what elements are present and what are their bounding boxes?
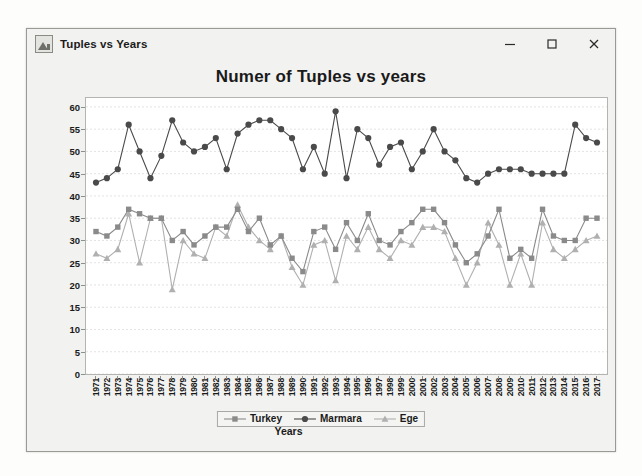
x-tick-mark: [171, 376, 172, 379]
data-point: [420, 148, 426, 154]
y-tick-label: 35: [69, 213, 80, 224]
x-tick-mark: [128, 376, 129, 379]
data-point: [278, 126, 284, 132]
x-tick-mark: [378, 376, 379, 379]
data-point: [332, 277, 339, 283]
series-ege: [93, 201, 601, 292]
data-point: [159, 215, 164, 220]
x-tick-label: 1980: [189, 378, 199, 396]
x-tick-label: 1983: [222, 378, 232, 396]
data-point: [169, 117, 175, 123]
data-point: [529, 256, 534, 261]
x-tick-label: 1993: [331, 378, 341, 396]
x-tick-label: 1987: [265, 378, 275, 396]
data-point: [180, 237, 187, 243]
data-point: [202, 144, 208, 150]
data-point: [408, 241, 415, 247]
data-point: [224, 224, 229, 229]
window-controls: [489, 29, 615, 59]
data-point: [398, 139, 404, 145]
data-point: [343, 175, 349, 181]
data-point: [464, 260, 469, 265]
plot-area: [85, 97, 608, 375]
x-tick-label: 2014: [559, 378, 569, 396]
chart-legend: TurkeyMarmaraEge: [217, 411, 425, 427]
data-point: [540, 207, 545, 212]
data-point: [115, 166, 121, 172]
x-tick-mark: [193, 376, 194, 379]
data-point: [561, 171, 567, 177]
data-point: [126, 207, 131, 212]
x-tick-label: 1999: [396, 378, 406, 396]
legend-item-marmara[interactable]: Marmara: [294, 414, 362, 424]
x-tick-label: 1971: [91, 378, 101, 396]
x-tick-mark: [160, 376, 161, 379]
y-tick-label: 50: [69, 146, 80, 157]
legend-marker-square-icon: [224, 414, 246, 424]
x-tick-mark: [498, 376, 499, 379]
legend-item-ege[interactable]: Ege: [374, 414, 418, 424]
data-point: [551, 233, 556, 238]
data-point: [398, 229, 403, 234]
x-tick-label: 2013: [548, 378, 558, 396]
x-tick-label: 1989: [287, 378, 297, 396]
x-tick-label: 2000: [407, 378, 417, 396]
data-point: [485, 171, 491, 177]
x-tick-mark: [487, 376, 488, 379]
data-point: [148, 215, 153, 220]
application-window: Tuples vs Years: [26, 28, 616, 452]
data-point: [180, 229, 185, 234]
y-tick-label: 55: [69, 124, 80, 135]
x-tick-label: 1975: [135, 378, 145, 396]
legend-label: Turkey: [250, 414, 282, 424]
x-tick-label: 2001: [418, 378, 428, 396]
x-tick-label: 1973: [113, 378, 123, 396]
x-tick-mark: [465, 376, 466, 379]
data-point: [191, 242, 196, 247]
x-tick-label: 1982: [211, 378, 221, 396]
data-point: [311, 144, 317, 150]
x-tick-label: 2003: [440, 378, 450, 396]
data-point: [235, 207, 240, 212]
data-point: [453, 242, 458, 247]
data-point: [268, 242, 273, 247]
y-tick-label: 0: [75, 369, 80, 380]
data-point: [300, 166, 306, 172]
x-tick-mark: [542, 376, 543, 379]
data-point: [452, 157, 458, 163]
x-tick-mark: [95, 376, 96, 379]
x-tick-label: 1988: [276, 378, 286, 396]
x-tick-label: 2002: [429, 378, 439, 396]
data-point: [202, 233, 207, 238]
x-tick-label: 1976: [145, 378, 155, 396]
data-point: [300, 269, 305, 274]
data-point: [245, 122, 251, 128]
data-point: [365, 224, 372, 230]
plot-wrapper: Number of Tuples 05101520253035404550556…: [85, 97, 608, 375]
x-tick-mark: [139, 376, 140, 379]
data-point: [333, 247, 338, 252]
x-tick-label: 2008: [494, 378, 504, 396]
x-tick-mark: [269, 376, 270, 379]
x-tick-mark: [313, 376, 314, 379]
x-tick-label: 1977: [156, 378, 166, 396]
maximize-button[interactable]: [531, 29, 573, 59]
x-tick-mark: [335, 376, 336, 379]
y-tick-label: 15: [69, 302, 80, 313]
data-point: [93, 250, 100, 256]
data-point: [344, 220, 349, 225]
y-tick-label: 25: [69, 257, 80, 268]
data-point: [442, 220, 447, 225]
y-tick-label: 40: [69, 190, 80, 201]
close-button[interactable]: [573, 29, 615, 59]
data-point: [114, 246, 121, 252]
data-point: [387, 242, 392, 247]
data-point: [104, 175, 110, 181]
data-point: [104, 233, 109, 238]
x-tick-mark: [106, 376, 107, 379]
legend-item-turkey[interactable]: Turkey: [224, 414, 282, 424]
x-tick-mark: [182, 376, 183, 379]
data-point: [343, 233, 350, 239]
minimize-button[interactable]: [489, 29, 531, 59]
data-point: [278, 233, 283, 238]
